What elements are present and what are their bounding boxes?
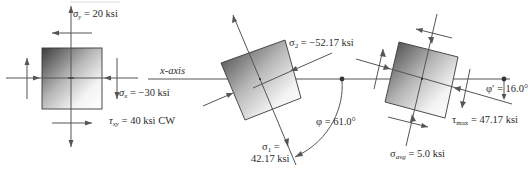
sigma-y-down-arrow-icon (69, 140, 74, 147)
shear-top-arrow-icon (52, 31, 59, 36)
sigma-x-left-arrow-icon (33, 76, 40, 81)
sigma-1-value: 42.17 ksi (251, 153, 290, 164)
sigma-y-label: σy = 20 ksi (73, 8, 118, 21)
tau-xy-label: τxy = 40 ksi CW (109, 115, 175, 128)
rotated-element-square (221, 40, 301, 120)
shear-right-arrow-icon (460, 101, 466, 108)
phi-prime-label: φ′ = 16.0° (486, 83, 528, 94)
reference-point-dot (340, 77, 345, 82)
phi-label: φ = 61.0° (316, 116, 356, 127)
reference-point-dot (502, 77, 507, 82)
left-normal-arrow-icon (383, 64, 390, 70)
tau-max-label: τmax = 47.17 ksi (452, 114, 518, 127)
max-shear-element: φ′ = 16.0° τmax = 47.17 ksi σavg = 5.0 k… (356, 14, 528, 161)
phi-arc-arrow-icon (295, 151, 303, 157)
sigma-x-right-arrow-icon (104, 76, 111, 81)
stress-transformation-diagram: σy = 20 ksi σx = −30 ksi τxy = 40 ksi CW… (0, 0, 528, 169)
principal-stress-element: σ2 = −52.17 ksi σ1 = 42.17 ksi φ = 61.0° (203, 15, 356, 165)
center-mark (259, 78, 261, 80)
shear-left-arrow-icon (380, 49, 386, 57)
original-stress-element: σy = 20 ksi σx = −30 ksi τxy = 40 ksi CW (6, 6, 175, 147)
phi-prime-arrow-icon (502, 94, 507, 100)
sigma-2-left-arrow-icon (226, 93, 233, 98)
shear-left-arrow-icon (25, 58, 30, 65)
x-axis-label: x-axis (159, 65, 185, 76)
shear-bottom-arrow-icon (85, 121, 92, 126)
sigma-x-label: σx = −30 ksi (119, 87, 170, 100)
sigma-avg-label: σavg = 5.0 ksi (390, 148, 445, 161)
top-normal-arrow-icon (428, 37, 434, 44)
right-normal-arrow-icon (454, 86, 461, 92)
sigma-2-label: σ2 = −52.17 ksi (289, 37, 354, 50)
center-mark (421, 78, 423, 80)
